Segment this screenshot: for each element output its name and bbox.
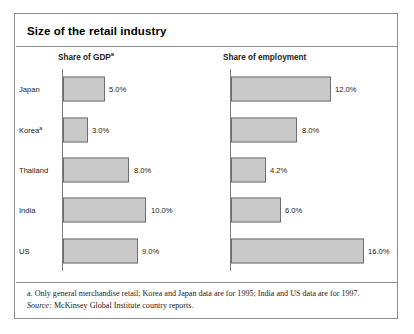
bar-value-gdp-korea: 3.0% (92, 125, 109, 134)
bar-value-gdp-japan: 5.0% (109, 85, 126, 94)
bar-gdp-japan (63, 77, 105, 102)
bar-rows-gdp: Japan 5.0% Koreaa 3.0% T (15, 69, 215, 271)
table-row: Koreaa 3.0% (15, 109, 215, 149)
category-label-japan: Japan (15, 84, 57, 95)
panel-heading-share-of-employment: Share of employment (223, 51, 306, 62)
category-label-text: India (19, 207, 35, 216)
bar-value-gdp-thailand: 8.0% (134, 165, 151, 174)
panel-heading-label: Share of GDP (58, 53, 111, 62)
table-row: 6.0% (215, 190, 397, 230)
bar-gdp-india (63, 198, 146, 223)
footer-divider (16, 282, 398, 283)
footnote-a: a. Only general merchandise retail; Kore… (27, 288, 389, 300)
table-row: Japan 5.0% (15, 69, 215, 109)
bar-employment-india (231, 198, 281, 223)
panel-heading-footnote-marker: a (111, 51, 114, 57)
bar-value-employment-korea: 8.0% (302, 125, 319, 134)
exhibit-container: Size of the retail industry Share of GDP… (0, 0, 414, 334)
table-row: 12.0% (215, 69, 397, 109)
exhibit-notes: a. Only general merchandise retail; Kore… (27, 288, 389, 311)
bar-value-employment-us: 16.0% (368, 246, 390, 255)
table-row: 8.0% (215, 109, 397, 149)
category-footnote-marker: a (39, 124, 42, 130)
bar-value-employment-thailand: 4.2% (270, 165, 287, 174)
chart-panel-share-of-gdp: Share of GDPa Japan 5.0% Koreaa (15, 47, 215, 282)
category-label-text: Japan (19, 85, 40, 94)
category-label-text: Thailand (19, 166, 48, 175)
bar-value-employment-india: 6.0% (285, 206, 302, 215)
table-row: India 10.0% (15, 190, 215, 230)
bar-employment-japan (231, 77, 331, 102)
exhibit-frame: Size of the retail industry Share of GDP… (14, 13, 398, 319)
panel-heading-label: Share of employment (223, 53, 306, 62)
charts-area: Share of GDPa Japan 5.0% Koreaa (15, 47, 397, 282)
bar-gdp-us (63, 238, 138, 263)
bar-rows-employment: 12.0% 8.0% 4.2% 6.0% (215, 69, 397, 271)
bar-employment-us (231, 238, 364, 263)
category-label-text: Korea (19, 126, 39, 135)
table-row: US 9.0% (15, 231, 215, 271)
source-line: Source: McKinsey Global Institute countr… (27, 300, 389, 312)
bar-employment-korea (231, 117, 297, 142)
table-row: Thailand 8.0% (15, 150, 215, 190)
panel-heading-share-of-gdp: Share of GDPa (58, 51, 114, 62)
category-label-thailand: Thailand (15, 165, 57, 176)
bar-value-employment-japan: 12.0% (335, 85, 357, 94)
page-title: Size of the retail industry (27, 25, 166, 37)
category-label-text: US (19, 247, 30, 256)
chart-panel-share-of-employment: Share of employment 12.0% 8.0% 4.2% (215, 47, 397, 282)
bar-value-gdp-us: 9.0% (142, 246, 159, 255)
source-label: Source: (27, 301, 52, 310)
category-label-korea: Koreaa (15, 124, 57, 135)
bar-employment-thailand (231, 157, 266, 182)
table-row: 4.2% (215, 150, 397, 190)
bar-gdp-thailand (63, 157, 129, 182)
bar-value-gdp-india: 10.0% (151, 206, 173, 215)
table-row: 16.0% (215, 231, 397, 271)
bar-gdp-korea (63, 117, 88, 142)
category-label-india: India (15, 205, 57, 216)
category-label-us: US (15, 246, 57, 257)
source-text: McKinsey Global Institute country report… (52, 301, 194, 310)
